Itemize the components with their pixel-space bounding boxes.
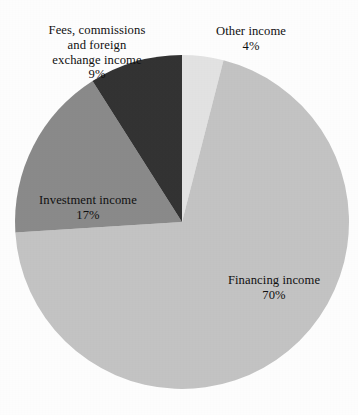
pie-label-other-income: Other income 4% [186, 9, 316, 68]
pie-label-financing-income: Financing income 70% [208, 258, 340, 317]
pie-label-financing-income-name: Financing income [228, 273, 320, 287]
pie-chart-figure: Fees, commissions and foreign exchange i… [0, 0, 358, 415]
pie-label-financing-income-percent: 70% [208, 288, 340, 303]
pie-label-fees-income-name: Fees, commissions and foreign exchange i… [49, 23, 146, 67]
pie-label-fees-income-percent: 9% [18, 67, 176, 82]
pie-label-other-income-name: Other income [216, 24, 286, 38]
pie-label-investment-income-percent: 17% [14, 208, 162, 223]
pie-label-other-income-percent: 4% [186, 39, 316, 54]
pie-label-investment-income: Investment income 17% [14, 178, 162, 237]
pie-label-fees-income: Fees, commissions and foreign exchange i… [18, 8, 176, 97]
pie-label-investment-income-name: Investment income [39, 193, 137, 207]
